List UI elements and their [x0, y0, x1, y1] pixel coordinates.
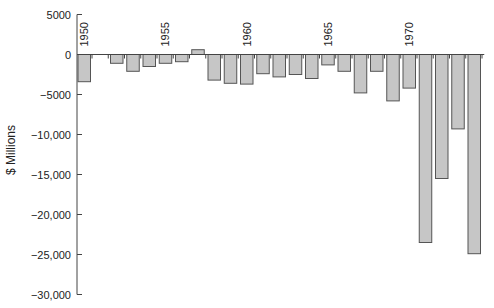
bars — [78, 50, 481, 254]
y-tick-label: −15,000 — [31, 169, 71, 181]
bar-1965 — [322, 55, 335, 65]
bar-1966 — [338, 55, 351, 72]
y-tick-label: −5000 — [40, 89, 71, 101]
bar-1969 — [387, 55, 400, 101]
y-tick-label: −25,000 — [31, 249, 71, 261]
bar-1967 — [354, 55, 367, 93]
bar-1974 — [468, 55, 481, 254]
y-tick-label: 0 — [65, 49, 71, 61]
bar-1953 — [127, 55, 140, 72]
y-axis-label: $ Millions — [4, 125, 18, 175]
bar-1960 — [241, 55, 254, 85]
bar-chart: 50000−5000−10,000−15,000−20,000−25,000−3… — [0, 0, 494, 308]
bar-1964 — [306, 55, 319, 79]
x-tick-label: 1970 — [403, 22, 415, 46]
bar-1962 — [273, 55, 286, 77]
bar-1958 — [208, 55, 221, 81]
bar-1957 — [192, 50, 205, 55]
bar-1950 — [78, 55, 91, 82]
y-axis: 50000−5000−10,000−15,000−20,000−25,000−3… — [31, 9, 82, 301]
y-tick-label: −10,000 — [31, 129, 71, 141]
bar-1968 — [371, 55, 384, 72]
bar-1956 — [176, 55, 189, 62]
x-tick-label: 1950 — [78, 22, 90, 46]
bar-1973 — [452, 55, 465, 129]
bar-1959 — [224, 55, 237, 84]
y-tick-label: 5000 — [47, 9, 71, 21]
x-axis: 19501955196019651970 — [77, 22, 484, 58]
bar-1955 — [159, 55, 172, 64]
y-tick-label: −30,000 — [31, 289, 71, 301]
bar-1961 — [257, 55, 270, 74]
x-tick-label: 1960 — [241, 22, 253, 46]
bar-1952 — [111, 55, 124, 64]
bar-1954 — [143, 55, 156, 67]
y-tick-label: −20,000 — [31, 209, 71, 221]
x-tick-label: 1955 — [159, 22, 171, 46]
bar-1970 — [403, 55, 416, 89]
bar-1972 — [436, 55, 449, 179]
bar-1971 — [419, 55, 432, 243]
x-tick-label: 1965 — [322, 22, 334, 46]
bar-1963 — [289, 55, 302, 75]
